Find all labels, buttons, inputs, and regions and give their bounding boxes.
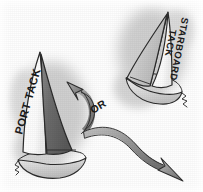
illustration-canvas: PORT TACK STARBOARD TACK OR [0, 0, 203, 192]
sailing-tack-diagram: PORT TACK STARBOARD TACK OR [0, 0, 203, 192]
